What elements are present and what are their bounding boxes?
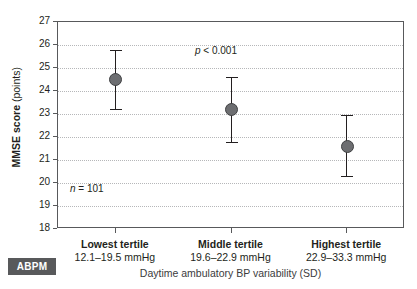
error-bar-cap-upper	[110, 50, 122, 51]
sample-size-text: = 101	[76, 183, 104, 194]
x-category-label: Highest tertile22.9–33.3 mmHg	[276, 238, 416, 264]
data-point-marker	[341, 140, 354, 153]
y-tick-label: 19	[20, 200, 50, 210]
error-bar-cap-lower	[226, 142, 238, 143]
y-tick-label: 22	[20, 131, 50, 141]
sample-size-annotation: n = 101	[70, 184, 104, 194]
p-value-text: < 0.001	[201, 45, 237, 56]
x-tick-mark	[346, 228, 347, 233]
y-tick-label: 27	[20, 16, 50, 26]
gridline	[58, 206, 403, 207]
x-tick-mark	[115, 228, 116, 233]
gridline	[58, 160, 403, 161]
y-tick-label: 18	[20, 223, 50, 233]
y-tick-label: 24	[20, 85, 50, 95]
y-tick-label: 21	[20, 154, 50, 164]
abpm-badge: ABPM	[8, 258, 56, 275]
y-tick-label: 20	[20, 177, 50, 187]
gridline	[58, 68, 403, 69]
p-value-annotation: p < 0.001	[195, 46, 237, 56]
error-bar-cap-lower	[341, 176, 353, 177]
error-bar-cap-upper	[226, 77, 238, 78]
y-tick-mark	[53, 228, 57, 229]
plot-area: p < 0.001 n = 101	[57, 21, 404, 228]
data-point-marker	[109, 73, 122, 86]
x-category-range: 22.9–33.3 mmHg	[276, 251, 416, 264]
y-tick-label: 23	[20, 108, 50, 118]
chart-figure: MMSE score (points) 27262524232221201918…	[0, 0, 417, 289]
x-axis-title: Daytime ambulatory BP variability (SD)	[57, 268, 404, 279]
x-category-name: Highest tertile	[276, 238, 416, 251]
data-point-marker	[225, 103, 238, 116]
error-bar-cap-lower	[110, 109, 122, 110]
y-tick-label: 26	[20, 39, 50, 49]
x-tick-mark	[231, 228, 232, 233]
y-tick-label: 25	[20, 62, 50, 72]
gridline	[58, 183, 403, 184]
error-bar-cap-upper	[341, 115, 353, 116]
